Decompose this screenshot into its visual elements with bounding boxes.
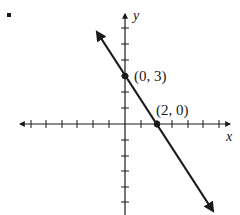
point-label-y-intercept: (0, 3) — [134, 68, 167, 85]
coordinate-graph: (0, 3) (2, 0) x y — [0, 0, 240, 215]
plotted-line — [97, 32, 213, 211]
y-axis-label: y — [131, 8, 140, 23]
point-label-x-intercept: (2, 0) — [156, 102, 189, 119]
x-axis-label: x — [225, 129, 233, 144]
bullet-marker — [7, 13, 11, 17]
point-x-intercept — [154, 121, 160, 127]
point-y-intercept — [122, 73, 128, 79]
